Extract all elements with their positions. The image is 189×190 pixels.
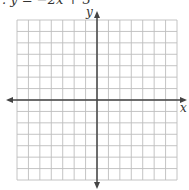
x-axis-left-arrow-icon (6, 97, 13, 103)
y-axis-down-arrow-icon (94, 182, 100, 189)
coordinate-grid: x y (0, 0, 189, 190)
y-axis-label: y (85, 5, 93, 19)
y-axis-up-arrow-icon (94, 11, 100, 18)
x-axis-label: x (180, 101, 187, 115)
